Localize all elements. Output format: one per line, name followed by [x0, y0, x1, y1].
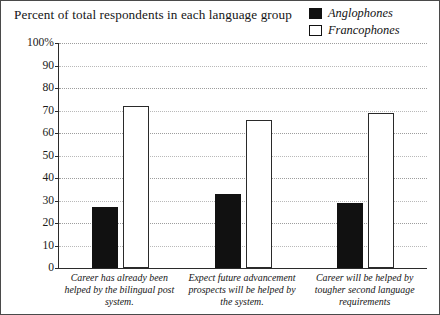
y-axis-tick-label: 100% — [6, 37, 54, 49]
y-axis-tick-mark — [55, 43, 59, 44]
y-axis-tick-mark — [55, 223, 59, 224]
y-axis-tick-mark — [55, 156, 59, 157]
legend-item-francophones: Francophones — [309, 22, 431, 38]
y-axis-tick-label: 20 — [6, 217, 54, 229]
chart-title: Percent of total respondents in each lan… — [14, 7, 292, 23]
y-axis-tick-mark — [55, 88, 59, 89]
chart-legend: Anglophones Francophones — [309, 5, 431, 39]
plot-area: 0102030405060708090100% — [58, 43, 427, 269]
y-axis-tick-label: 40 — [6, 172, 54, 184]
y-axis-tick-label: 60 — [6, 127, 54, 139]
y-axis-tick-label: 90 — [6, 60, 54, 72]
bar-francophones-group-3 — [368, 113, 394, 268]
category-label-3: Career will be helped by tougher second … — [307, 272, 422, 309]
legend-swatch-filled-square-icon — [309, 8, 322, 19]
gridline — [59, 66, 427, 67]
y-axis-tick-mark — [55, 268, 59, 269]
category-label-2: Expect future advancement prospects will… — [185, 272, 300, 309]
y-axis-tick-label: 50 — [6, 150, 54, 162]
bar-anglophones-group-2 — [215, 194, 241, 268]
legend-label-francophones: Francophones — [328, 23, 400, 37]
gridline — [59, 111, 427, 112]
y-axis-tick-mark — [55, 66, 59, 67]
y-axis-tick-label: 30 — [6, 195, 54, 207]
legend-swatch-hollow-square-icon — [309, 25, 322, 36]
legend-item-anglophones: Anglophones — [309, 5, 431, 21]
y-axis-tick-label: 70 — [6, 105, 54, 117]
bar-francophones-group-2 — [246, 120, 272, 269]
y-axis-tick-mark — [55, 201, 59, 202]
y-axis-tick-label: 10 — [6, 240, 54, 252]
gridline — [59, 88, 427, 89]
category-label-1: Career has already been helped by the bi… — [62, 272, 177, 309]
y-axis-tick-mark — [55, 178, 59, 179]
chart-figure: Percent of total respondents in each lan… — [0, 0, 440, 315]
y-axis-tick-mark — [55, 111, 59, 112]
bar-anglophones-group-3 — [337, 203, 363, 268]
bar-anglophones-group-1 — [92, 207, 118, 268]
category-labels: Career has already been helped by the bi… — [58, 272, 426, 315]
legend-label-anglophones: Anglophones — [328, 6, 393, 20]
y-axis-tick-label: 80 — [6, 82, 54, 94]
gridline — [59, 43, 427, 44]
y-axis-tick-mark — [55, 246, 59, 247]
y-axis-tick-label: 0 — [6, 262, 54, 274]
y-axis-tick-mark — [55, 133, 59, 134]
bar-francophones-group-1 — [123, 106, 149, 268]
